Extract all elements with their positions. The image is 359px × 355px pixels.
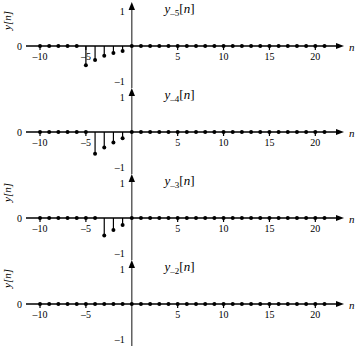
svg-text:0: 0: [17, 127, 22, 138]
svg-text:0: 0: [17, 213, 22, 224]
svg-text:n: n: [349, 127, 355, 139]
svg-text:–10: –10: [32, 309, 48, 320]
svg-text:15: 15: [264, 223, 274, 234]
svg-text:15: 15: [264, 137, 274, 148]
svg-text:5: 5: [175, 137, 180, 148]
svg-text:0: 0: [17, 41, 22, 52]
svg-text:0: 0: [17, 299, 22, 310]
svg-text:–1: –1: [114, 334, 125, 345]
panel-y-minus-3: y–3[n] y[n] –10–5510152001–1n: [0, 172, 359, 260]
svg-text:20: 20: [310, 51, 320, 62]
svg-text:–5: –5: [80, 309, 91, 320]
svg-text:20: 20: [310, 309, 320, 320]
svg-text:15: 15: [264, 309, 274, 320]
svg-text:–10: –10: [32, 223, 48, 234]
svg-text:n: n: [349, 213, 355, 225]
svg-text:–10: –10: [32, 137, 48, 148]
svg-text:–5: –5: [80, 137, 91, 148]
stem-plot-figure: y–5[n] y[n] –10–5510152001–1n y–4[n] –10…: [0, 0, 359, 355]
svg-text:1: 1: [120, 264, 125, 275]
svg-text:n: n: [349, 299, 355, 311]
svg-text:1: 1: [120, 178, 125, 189]
svg-text:5: 5: [175, 223, 180, 234]
svg-text:10: 10: [219, 223, 229, 234]
svg-text:10: 10: [219, 309, 229, 320]
plot-canvas-0: –10–5510152001–1n: [0, 0, 359, 88]
svg-text:15: 15: [264, 51, 274, 62]
svg-text:n: n: [349, 41, 355, 53]
plot-canvas-1: –10–5510152001–1n: [0, 86, 359, 174]
svg-text:–10: –10: [32, 51, 48, 62]
plot-canvas-3: –10–5510152001–1n: [0, 258, 359, 346]
panel-y-minus-5: y–5[n] y[n] –10–5510152001–1n: [0, 0, 359, 88]
plot-canvas-2: –10–5510152001–1n: [0, 172, 359, 260]
svg-text:20: 20: [310, 223, 320, 234]
svg-text:–5: –5: [80, 223, 91, 234]
panel-y-minus-2: y–2[n] y[n] –10–5510152001–1n: [0, 258, 359, 346]
svg-text:10: 10: [219, 51, 229, 62]
panel-y-minus-4: y–4[n] –10–5510152001–1n: [0, 86, 359, 174]
svg-text:5: 5: [175, 309, 180, 320]
svg-text:1: 1: [120, 6, 125, 17]
svg-text:10: 10: [219, 137, 229, 148]
svg-text:1: 1: [120, 92, 125, 103]
svg-text:5: 5: [175, 51, 180, 62]
svg-text:20: 20: [310, 137, 320, 148]
